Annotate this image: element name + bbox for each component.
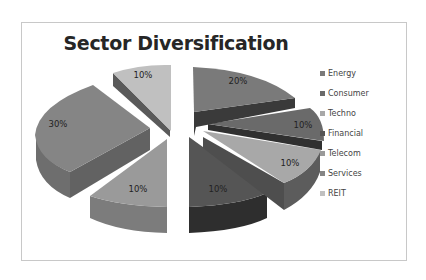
legend-swatch-icon [320,171,325,176]
slice-label-techno: 10% [281,158,300,168]
slice-label-telecom: 10% [129,184,148,194]
chart-legend: Energy Consumer Techno Financial Telecom… [320,63,369,203]
legend-item-telecom: Telecom [320,143,369,163]
legend-item-energy: Energy [320,63,369,83]
slice-label-services: 30% [49,119,68,129]
legend-swatch-icon [320,111,325,116]
legend-item-financial: Financial [320,123,369,143]
legend-swatch-icon [320,91,325,96]
slice-label-consumer: 10% [294,120,313,130]
legend-swatch-icon [320,151,325,156]
slice-label-financial: 10% [209,184,228,194]
legend-swatch-icon [320,191,325,196]
slice-label-energy: 20% [229,76,248,86]
legend-item-consumer: Consumer [320,83,369,103]
legend-item-reit: REIT [320,183,369,203]
legend-item-services: Services [320,163,369,183]
legend-item-techno: Techno [320,103,369,123]
legend-swatch-icon [320,131,325,136]
legend-swatch-icon [320,71,325,76]
slice-label-reit: 10% [134,70,153,80]
